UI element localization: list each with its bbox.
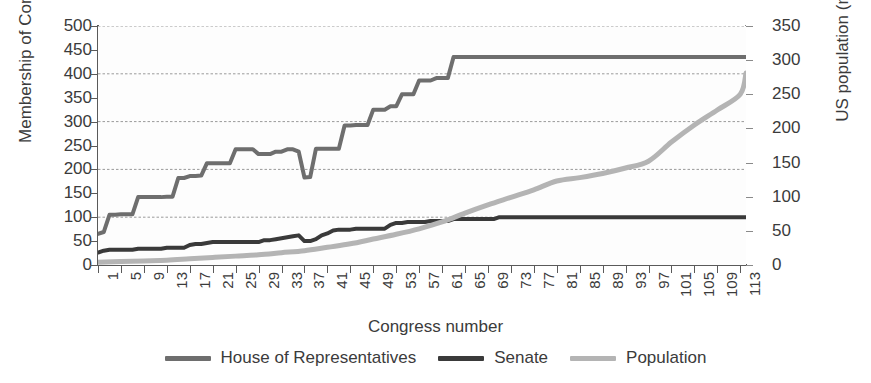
y-tick-mark-left [90, 169, 98, 170]
x-tick-mark [167, 266, 168, 273]
y-tick-mark-right [746, 26, 753, 27]
y-tick-mark-right [746, 231, 753, 232]
legend-label: House of Representatives [221, 348, 417, 368]
x-tick-mark [534, 266, 535, 273]
legend-item[interactable]: Population [570, 348, 706, 368]
y-tick-mark-right [746, 197, 753, 198]
y-tick-mark-right [746, 265, 753, 266]
x-tick-mark [327, 266, 328, 273]
x-tick-mark [419, 266, 420, 273]
y-tick-mark-left [90, 193, 98, 194]
x-tick-mark [350, 266, 351, 273]
x-tick-mark [557, 266, 558, 273]
legend-item[interactable]: Senate [438, 348, 548, 368]
y-tick-label-left: 350 [32, 89, 92, 106]
x-tick-label: 89 [609, 272, 626, 289]
y-tick-label-left: 450 [32, 41, 92, 58]
x-tick-label: 41 [333, 272, 350, 289]
y-tick-label-left: 400 [32, 65, 92, 82]
x-tick-mark [603, 266, 604, 273]
y-tick-label-right: 300 [772, 51, 832, 68]
x-tick-mark [396, 266, 397, 273]
y-tick-label-right: 0 [772, 256, 832, 273]
legend-item[interactable]: House of Representatives [165, 348, 417, 368]
chart-figure: Membership of Congress US population (mi… [0, 0, 871, 383]
y-tick-label-right: 250 [772, 85, 832, 102]
y-axis-left-ticks: 050100150200250300350400450500 [30, 0, 92, 290]
x-tick-mark [373, 266, 374, 273]
x-tick-label: 33 [288, 272, 305, 289]
x-tick-mark [465, 266, 466, 273]
y-tick-label-left: 50 [32, 232, 92, 249]
y-axis-right-title: US population (millions) [833, 0, 853, 162]
x-tick-label: 73 [517, 272, 534, 289]
x-tick-label: 49 [379, 272, 396, 289]
series-line [98, 57, 746, 234]
y-tick-mark-right [746, 94, 753, 95]
plot-area [98, 26, 746, 265]
x-tick-label: 29 [265, 272, 282, 289]
legend-swatch [438, 356, 484, 361]
chart-legend: House of RepresentativesSenatePopulation [0, 348, 871, 368]
x-tick-label: 53 [402, 272, 419, 289]
y-tick-label-left: 200 [32, 160, 92, 177]
legend-label: Senate [494, 348, 548, 368]
x-tick-mark [740, 266, 741, 273]
x-tick-mark [649, 266, 650, 273]
y-tick-label-left: 0 [32, 256, 92, 273]
legend-label: Population [626, 348, 706, 368]
x-tick-mark [488, 266, 489, 273]
x-tick-label: 45 [356, 272, 373, 289]
y-tick-mark-left [90, 241, 98, 242]
y-tick-label-right: 200 [772, 119, 832, 136]
y-tick-mark-left [90, 146, 98, 147]
x-tick-label: 25 [242, 272, 259, 289]
x-tick-mark [98, 266, 99, 273]
x-tick-mark [304, 266, 305, 273]
y-tick-label-right: 150 [772, 154, 832, 171]
y-tick-mark-left [90, 98, 98, 99]
x-tick-label: 5 [127, 272, 144, 280]
y-tick-mark-left [90, 74, 98, 75]
x-tick-mark [671, 266, 672, 273]
x-tick-label: 57 [425, 272, 442, 289]
legend-swatch [165, 356, 211, 361]
y-tick-mark-left [90, 122, 98, 123]
x-tick-mark [442, 266, 443, 273]
x-tick-label: 85 [586, 272, 603, 289]
x-tick-mark [144, 266, 145, 273]
y-tick-label-left: 500 [32, 17, 92, 34]
x-tick-label: 93 [632, 272, 649, 289]
x-tick-label: 105 [700, 272, 717, 297]
x-tick-mark [121, 266, 122, 273]
x-tick-mark [717, 266, 718, 273]
x-tick-mark [694, 266, 695, 273]
x-tick-label: 77 [540, 272, 557, 289]
y-tick-mark-left [90, 217, 98, 218]
y-tick-mark-right [746, 163, 753, 164]
y-tick-mark-left [90, 265, 98, 266]
y-tick-mark-left [90, 26, 98, 27]
x-tick-mark [236, 266, 237, 273]
legend-swatch [570, 356, 616, 361]
x-tick-label: 1 [104, 272, 121, 280]
x-tick-mark [190, 266, 191, 273]
x-tick-mark [511, 266, 512, 273]
y-tick-label-left: 100 [32, 208, 92, 225]
x-tick-label: 17 [196, 272, 213, 289]
y-tick-label-left: 150 [32, 184, 92, 201]
x-tick-label: 37 [310, 272, 327, 289]
series-canvas [98, 26, 746, 265]
x-tick-label: 101 [677, 272, 694, 297]
y-tick-mark-left [90, 50, 98, 51]
y-tick-mark-right [746, 60, 753, 61]
y-tick-label-left: 300 [32, 113, 92, 130]
x-tick-label: 109 [723, 272, 740, 297]
x-tick-mark [259, 266, 260, 273]
x-tick-label: 69 [494, 272, 511, 289]
y-tick-mark-right [746, 128, 753, 129]
x-tick-mark [213, 266, 214, 273]
y-axis-right-ticks: 050100150200250300350 [772, 0, 834, 290]
x-tick-label: 21 [219, 272, 236, 289]
y-tick-label-right: 50 [772, 222, 832, 239]
